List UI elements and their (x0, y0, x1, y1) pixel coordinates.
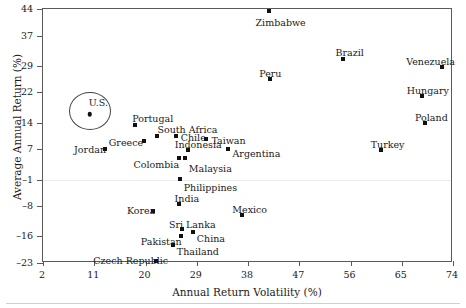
x-axis-tick-label: 56 (343, 269, 355, 280)
x-axis-tick (453, 261, 454, 266)
plot-area: U.S.JordanPortugalGreeceSouth AfricaChil… (42, 8, 452, 262)
y-axis-tick-label: 44 (21, 3, 33, 14)
x-axis-tick (248, 261, 249, 266)
x-axis-tick (197, 261, 198, 266)
y-axis-tick (37, 123, 43, 124)
data-point-label: Taiwan (211, 136, 245, 146)
x-axis-tick (299, 261, 300, 266)
data-point-label: India (175, 194, 200, 204)
scatter-chart-figure: U.S.JordanPortugalGreeceSouth AfricaChil… (0, 0, 466, 308)
y-axis-tick (37, 149, 43, 150)
data-point-label: Peru (259, 69, 281, 79)
data-point-marker[interactable] (226, 147, 230, 151)
y-axis-tick (37, 36, 43, 37)
x-axis-tick-label: 20 (138, 269, 150, 280)
data-point-label: Turkey (371, 140, 405, 150)
data-point-label: Malaysia (189, 164, 232, 174)
y-axis-tick-label: –16 (16, 230, 33, 241)
x-axis-tick-label: 74 (446, 269, 458, 280)
data-point-label: Hungary (407, 86, 449, 96)
data-point-marker[interactable] (267, 9, 271, 13)
zero-reference-line (43, 180, 451, 181)
y-axis-tick-label: 37 (21, 29, 33, 40)
data-point-marker[interactable] (183, 156, 187, 160)
x-axis-tick (351, 261, 352, 266)
data-point-label: China (197, 234, 225, 244)
data-point-label: Mexico (232, 205, 267, 215)
data-point-label: Sri Lanka (169, 220, 216, 230)
data-point-marker[interactable] (174, 134, 178, 138)
x-axis-tick-label: 29 (190, 269, 202, 280)
data-point-label: Zimbabwe (256, 18, 306, 28)
y-axis-tick-label: 7 (27, 143, 33, 154)
data-point-label: Philippines (184, 183, 237, 193)
data-point-label: U.S. (89, 98, 108, 108)
data-point-label: Venezuela (406, 57, 455, 67)
data-point-label: Brazil (336, 48, 364, 58)
y-axis-tick-label: –8 (22, 200, 33, 211)
data-point-label: Thailand (177, 247, 219, 257)
data-point-marker[interactable] (178, 177, 182, 181)
y-axis-tick (37, 92, 43, 93)
data-point-label: Jordan (74, 145, 106, 155)
y-axis-tick-label: –23 (16, 257, 33, 268)
data-point-label: Greece (109, 138, 143, 148)
data-point-label: Portugal (132, 114, 173, 124)
x-axis-tick-label: 38 (241, 269, 253, 280)
data-point-label: Pakistan (141, 237, 182, 247)
x-axis-tick-label: 2 (39, 269, 45, 280)
x-axis-tick-label: 47 (292, 269, 304, 280)
data-point-label: Czech Republic (93, 256, 168, 266)
x-axis-tick-label: 65 (395, 269, 407, 280)
x-axis-title: Annual Return Volatility (%) (42, 286, 452, 298)
footer-rule (6, 303, 460, 304)
y-axis-tick (37, 180, 43, 181)
data-point-marker[interactable] (191, 230, 195, 234)
x-axis-tick-label: 11 (87, 269, 99, 280)
x-axis-tick (43, 261, 44, 266)
y-axis-tick (37, 236, 43, 237)
x-axis-tick (402, 261, 403, 266)
data-point-label: Colombia (134, 160, 180, 170)
y-axis-tick (37, 9, 43, 10)
data-point-label: Poland (415, 113, 448, 123)
y-axis-tick-label: –1 (22, 173, 33, 184)
y-axis-tick (37, 206, 43, 207)
y-axis-title: Average Annual Return (%) (11, 47, 23, 207)
data-point-label: Argentina (233, 149, 281, 159)
y-axis-tick (37, 66, 43, 67)
data-point-label: Korea (127, 206, 155, 216)
